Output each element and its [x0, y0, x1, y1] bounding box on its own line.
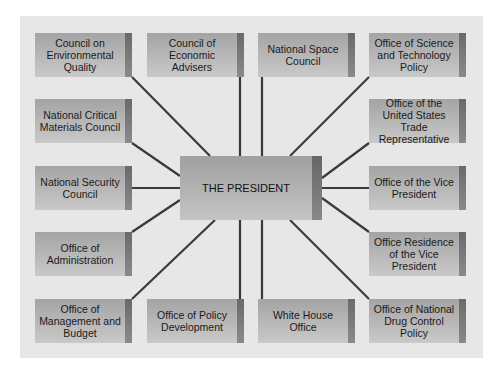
office-box: National Space Council: [258, 33, 355, 77]
office-box: Office of Administration: [35, 232, 132, 276]
office-label: Council on Environmental Quality: [37, 37, 123, 73]
office-label: Office of Science and Technology Policy: [371, 37, 457, 73]
office-label: Office of Policy Development: [149, 309, 235, 333]
office-label: Office of the United States Trade Repres…: [371, 97, 457, 145]
office-box: National Critical Materials Council: [35, 99, 132, 143]
office-box: Office of the Vice President: [369, 166, 466, 210]
office-box: Council of Economic Advisers: [147, 33, 244, 77]
office-label: Office of the Vice President: [371, 176, 457, 200]
office-box: Office of Policy Development: [147, 299, 244, 343]
office-label: Office of Management and Budget: [37, 303, 123, 339]
president-label: THE PRESIDENT: [202, 182, 290, 194]
office-label: Council of Economic Advisers: [149, 37, 235, 73]
office-box: Office Residence of the Vice President: [369, 232, 466, 276]
office-label: Office of Administration: [37, 242, 123, 266]
office-box: Office of the United States Trade Repres…: [369, 99, 466, 143]
office-label: Office of National Drug Control Policy: [371, 303, 457, 339]
office-label: White House Office: [260, 309, 346, 333]
office-box: White House Office: [258, 299, 355, 343]
president-box: THE PRESIDENT: [180, 156, 322, 220]
office-box: Council on Environmental Quality: [35, 33, 132, 77]
office-label: Office Residence of the Vice President: [371, 236, 457, 272]
office-label: National Security Council: [37, 176, 123, 200]
office-label: National Critical Materials Council: [37, 109, 123, 133]
office-box: Office of National Drug Control Policy: [369, 299, 466, 343]
office-box: Office of Management and Budget: [35, 299, 132, 343]
office-box: National Security Council: [35, 166, 132, 210]
office-label: National Space Council: [260, 43, 346, 67]
office-box: Office of Science and Technology Policy: [369, 33, 466, 77]
